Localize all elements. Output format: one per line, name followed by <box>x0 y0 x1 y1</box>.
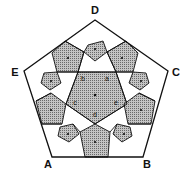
vertex-label-b: B <box>143 158 151 170</box>
center-label-a: a <box>105 75 109 82</box>
center-label-b: b <box>81 75 85 82</box>
vertex-label-a: A <box>44 158 52 170</box>
lower-right-small-pentagon <box>113 124 132 142</box>
center-label-d: d <box>93 111 97 118</box>
pentagon-diagram: D C B A E b a c e d <box>0 0 190 179</box>
right-pentagon <box>124 93 155 124</box>
center-label-c: c <box>73 99 77 106</box>
shaded-pentagons <box>36 41 155 157</box>
upper-right-pentagon <box>107 41 138 72</box>
left-pentagon <box>36 93 66 124</box>
vertex-label-d: D <box>91 4 99 16</box>
bottom-pentagon <box>80 124 110 157</box>
vertex-label-e: E <box>11 66 18 78</box>
vertex-label-c: C <box>172 66 180 78</box>
right-small-pentagon <box>129 72 149 90</box>
center-label-e: e <box>114 99 118 106</box>
top-small-pentagon <box>84 41 107 61</box>
